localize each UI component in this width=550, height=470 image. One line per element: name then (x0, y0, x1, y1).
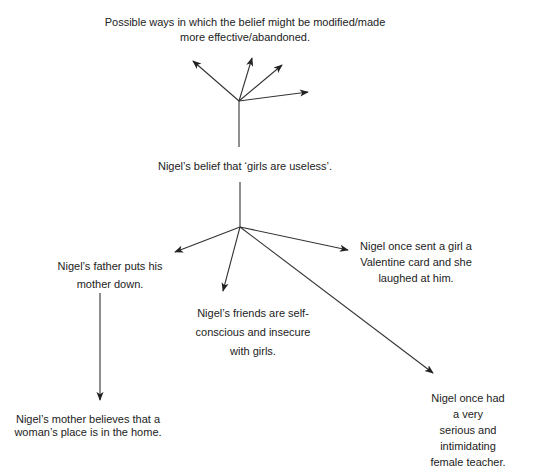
arrow-future-right (239, 92, 308, 101)
central-belief-label: Nigel’s belief that ‘girls are useless’. (158, 158, 332, 174)
cause-father-label: Nigel’s father puts his mother down. (58, 257, 163, 293)
arrow-future-upright (239, 65, 282, 101)
cause-friends-label: Nigel’s friends are self- conscious and … (196, 304, 311, 361)
secondary-cause-mother-label: Nigel’s mother believes that a woman’s p… (14, 413, 161, 439)
cause-teacher-label: Nigel once had a very serious and intimi… (427, 390, 509, 470)
arrow-to-friends (223, 227, 240, 291)
arrow-future-left (193, 61, 239, 101)
arrow-to-valentine (240, 227, 348, 250)
cause-valentine-label: Nigel once sent a girl a Valentine card … (360, 238, 472, 286)
arrow-future-up (239, 58, 252, 101)
top-label-future-modifications: Possible ways in which the belief might … (105, 15, 386, 45)
arrow-to-father (175, 227, 240, 252)
